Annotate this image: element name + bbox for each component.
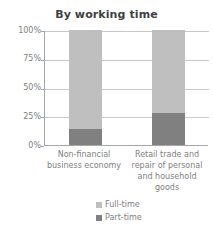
- x-category-label-2-line-2: repair of personal: [126, 160, 208, 171]
- y-tick-label-0: 0%: [1, 142, 41, 150]
- bar-segment-full-time[interactable]: [152, 30, 185, 113]
- x-axis: Non-financial business economy Retail tr…: [44, 149, 208, 194]
- plot-area: [44, 31, 208, 146]
- y-tick-label-50: 50%: [1, 84, 41, 92]
- chart-title: By working time: [0, 8, 213, 21]
- x-category-label-2: Retail trade and repair of personal and …: [126, 149, 208, 193]
- y-tick-label-100: 100%: [1, 27, 41, 35]
- legend-item-part-time[interactable]: Part-time: [0, 211, 213, 224]
- legend-swatch-part-time-icon: [96, 215, 102, 221]
- x-category-label-1-line-1: Non-financial: [43, 149, 125, 160]
- legend-swatch-full-time-icon: [96, 202, 102, 208]
- legend-label-full-time: Full-time: [105, 200, 140, 209]
- y-tick-mark-0: [41, 146, 44, 147]
- legend-label-part-time: Part-time: [105, 213, 142, 222]
- chart-container: By working time 100% 75% 50% 25% 0% Non-…: [0, 0, 213, 232]
- y-axis: 100% 75% 50% 25% 0%: [0, 31, 41, 146]
- y-tick-label-75: 75%: [1, 55, 41, 63]
- bar-segment-part-time[interactable]: [69, 129, 102, 145]
- x-category-label-1-line-2: business economy: [43, 160, 125, 171]
- x-category-label-2-line-3: and household goods: [126, 171, 208, 193]
- y-tick-label-25: 25%: [1, 113, 41, 121]
- x-category-label-2-line-1: Retail trade and: [126, 149, 208, 160]
- bar-segment-part-time[interactable]: [152, 113, 185, 145]
- legend: Full-time Part-time: [0, 198, 213, 224]
- bar-segment-full-time[interactable]: [69, 30, 102, 129]
- legend-item-full-time[interactable]: Full-time: [0, 198, 213, 211]
- x-category-label-1: Non-financial business economy: [43, 149, 125, 171]
